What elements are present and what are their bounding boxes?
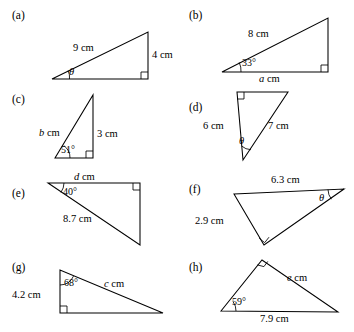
panel-c-vertical-label: 3 cm	[97, 129, 118, 140]
panel-c-angle-label: 51°	[61, 145, 75, 155]
panel-g-hypotenuse-unit: cm	[109, 278, 124, 289]
panel-f-triangle	[177, 172, 354, 256]
panel-b-base-label: a cm	[259, 74, 280, 85]
panel-e-angle-label: 40°	[63, 187, 77, 197]
panel-d-vertical-label: 6 cm	[203, 121, 224, 132]
figure-sheet: (a) 9 cm 4 cm θ (b) 8 cm 33° a cm (c) b …	[0, 0, 354, 332]
panel-c-triangle	[0, 88, 177, 172]
panel-e-top-unit: cm	[79, 171, 94, 182]
panel-c: (c) b cm 3 cm 51°	[0, 88, 177, 172]
panel-h-right-label: e cm	[287, 273, 307, 284]
panel-f-top-label: 6.3 cm	[271, 175, 300, 186]
panel-b-base-unit: cm	[264, 73, 279, 84]
panel-h-right-unit: cm	[292, 272, 307, 283]
panel-a-vertical-label: 4 cm	[152, 50, 173, 61]
panel-d: (d) 6 cm 7 cm θ	[177, 88, 354, 172]
panel-h-base-label: 7.9 cm	[260, 314, 289, 325]
panel-a: (a) 9 cm 4 cm θ	[0, 0, 177, 88]
panel-b-hypotenuse-label: 8 cm	[248, 29, 269, 40]
panel-g-hypotenuse-label: c cm	[104, 279, 124, 290]
panel-c-hypotenuse-label: b cm	[39, 128, 60, 139]
panel-f-angle-label: θ	[319, 193, 324, 204]
panel-h: (h) e cm 59° 7.9 cm	[177, 256, 354, 332]
panel-a-hypotenuse-label: 9 cm	[73, 43, 94, 54]
panel-a-angle-label: θ	[69, 67, 74, 78]
panel-f-left-label: 2.9 cm	[195, 216, 224, 227]
panel-b: (b) 8 cm 33° a cm	[177, 0, 354, 88]
panel-h-angle-label: 59°	[232, 297, 246, 307]
panel-e: (e) d cm 40° 8.7 cm	[0, 172, 177, 256]
panel-d-hypotenuse-label: 7 cm	[268, 121, 289, 132]
panel-d-angle-label: θ	[239, 136, 244, 147]
panel-b-angle-label: 33°	[242, 58, 256, 68]
panel-e-top-label: d cm	[74, 172, 95, 183]
panel-g-angle-label: 68°	[64, 278, 78, 288]
panel-e-hypotenuse-label: 8.7 cm	[63, 214, 92, 225]
panel-f: (f) 6.3 cm θ 2.9 cm	[177, 172, 354, 256]
panel-g: (g) 4.2 cm 68° c cm	[0, 256, 177, 332]
panel-g-vertical-label: 4.2 cm	[12, 290, 41, 301]
panel-c-hypotenuse-unit: cm	[44, 127, 59, 138]
